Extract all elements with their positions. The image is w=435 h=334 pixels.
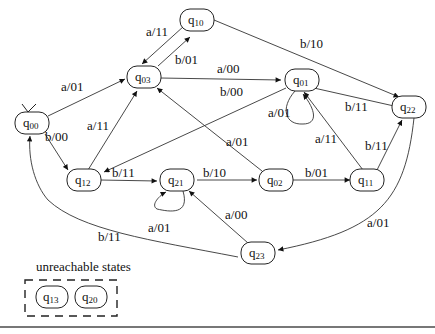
edge-label: b/01: [305, 165, 328, 180]
edge-label: a/00: [225, 207, 247, 222]
edge-label: b/00: [45, 129, 68, 144]
edges: [30, 20, 414, 257]
edge-q02-q03: [157, 88, 262, 171]
unreachable-caption: unreachable states: [36, 259, 131, 274]
state-q22[interactable]: q22: [392, 96, 426, 118]
edge-q23-q00: [30, 136, 238, 257]
edge-label: a/11: [87, 118, 109, 133]
edge-label: b/10: [300, 36, 323, 51]
edge-label: b/11: [98, 229, 121, 244]
state-q20[interactable]: q20: [75, 286, 107, 308]
unreachable-states-group: unreachable states q13 q20: [25, 259, 131, 316]
state-q23[interactable]: q23: [241, 242, 275, 264]
edge-label: a/11: [146, 24, 168, 39]
initial-state-marker: [22, 104, 36, 112]
edge-label: b/10: [203, 165, 226, 180]
state-q10[interactable]: q10: [180, 9, 214, 31]
edge-label: a/11: [315, 131, 337, 146]
edge-label: a/01: [148, 220, 170, 235]
edge-q00-q03: [48, 79, 125, 116]
edge-q21-self: [155, 191, 185, 211]
state-q11[interactable]: q11: [350, 169, 384, 191]
edge-label: a/01: [61, 79, 83, 94]
state-q12[interactable]: q12: [67, 169, 101, 191]
edge-label: a/01: [226, 134, 248, 149]
bottom-rule: [0, 326, 435, 328]
edge-label: b/11: [345, 99, 368, 114]
state-q02[interactable]: q02: [259, 169, 293, 191]
edge-labels: a/01 b/00 b/01 a/11 a/00 b/10 b/00 a/01 …: [45, 24, 389, 244]
edge-q03-q01: [160, 78, 281, 80]
edge-label: a/01: [367, 215, 389, 230]
state-nodes: q00 q03 q10 q01 q22 q12 q21 q02: [15, 9, 426, 264]
edge-q12-q21: [100, 180, 157, 181]
edge-label: a/01: [268, 105, 290, 120]
state-q03[interactable]: q03: [127, 66, 161, 88]
state-q13[interactable]: q13: [36, 286, 68, 308]
state-q00[interactable]: q00: [15, 112, 49, 134]
edge-label: b/11: [365, 138, 388, 153]
edge-label: b/01: [175, 52, 198, 67]
state-diagram: a/01 b/00 b/01 a/11 a/00 b/10 b/00 a/01 …: [0, 0, 435, 334]
state-q21[interactable]: q21: [160, 169, 194, 191]
edge-label: a/00: [217, 61, 239, 76]
edge-label: b/00: [220, 84, 243, 99]
state-q01[interactable]: q01: [285, 69, 319, 91]
edge-label: b/11: [112, 165, 135, 180]
